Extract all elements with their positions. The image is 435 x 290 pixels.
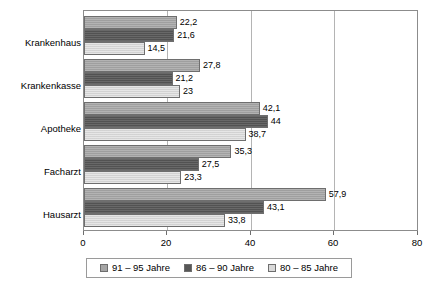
bar-value-label-0-1: 21,6 — [174, 29, 195, 42]
xtick-40 — [250, 231, 251, 235]
bar-chart: Krankenhaus Krankenkasse Apotheke Fachar… — [0, 0, 435, 290]
bar-group-4: 57,943,133,8 — [84, 188, 417, 227]
legend-item-0: 91 – 95 Jahre — [100, 262, 170, 274]
bar-group-3: 35,327,523,3 — [84, 145, 417, 184]
xtick-label-2: 40 — [245, 237, 256, 249]
bar-value-label-1-2: 23 — [180, 85, 193, 98]
value-axis: 0 20 40 60 80 — [83, 231, 418, 253]
bar-0-1[interactable] — [84, 29, 174, 42]
bar-0-2[interactable] — [84, 42, 145, 55]
bar-1-2[interactable] — [84, 85, 180, 98]
bar-value-label-3-2: 23,3 — [181, 171, 202, 184]
xtick-20 — [166, 231, 167, 235]
legend-swatch-icon-2 — [268, 264, 276, 272]
legend-swatch-icon-1 — [184, 264, 192, 272]
bar-value-label-0-2: 14,5 — [145, 42, 166, 55]
bar-3-1[interactable] — [84, 158, 199, 171]
bar-group-1: 27,821,223 — [84, 59, 417, 98]
bar-value-label-4-0: 57,9 — [326, 188, 347, 201]
xtick-0 — [83, 231, 84, 235]
bar-value-label-2-2: 38,7 — [246, 128, 267, 141]
bar-value-label-3-1: 27,5 — [199, 158, 220, 171]
category-label-2: Apotheke — [3, 123, 81, 134]
xtick-80 — [417, 231, 418, 235]
legend-item-1: 86 – 90 Jahre — [184, 262, 254, 274]
legend-label-0: 91 – 95 Jahre — [112, 262, 170, 274]
xtick-label-0: 0 — [80, 237, 85, 249]
category-axis: Krankenhaus Krankenkasse Apotheke Fachar… — [0, 10, 81, 231]
bar-value-label-2-0: 42,1 — [260, 102, 281, 115]
bar-group-0: 22,221,614,5 — [84, 16, 417, 55]
bar-1-0[interactable] — [84, 59, 200, 72]
bar-3-2[interactable] — [84, 171, 181, 184]
category-label-0: Krankenhaus — [3, 37, 81, 48]
category-label-4: Hausarzt — [3, 209, 81, 220]
xtick-label-4: 80 — [412, 237, 423, 249]
bar-2-2[interactable] — [84, 128, 246, 141]
category-label-1: Krankenkasse — [3, 80, 81, 91]
legend-item-2: 80 – 85 Jahre — [268, 262, 338, 274]
bar-value-label-2-1: 44 — [268, 115, 281, 128]
bar-0-0[interactable] — [84, 16, 177, 29]
bar-4-0[interactable] — [84, 188, 326, 201]
bar-value-label-4-1: 43,1 — [264, 201, 285, 214]
bar-value-label-4-2: 33,8 — [225, 214, 246, 227]
bar-group-2: 42,14438,7 — [84, 102, 417, 141]
bar-3-0[interactable] — [84, 145, 231, 158]
chart-legend: 91 – 95 Jahre 86 – 90 Jahre 80 – 85 Jahr… — [86, 258, 352, 278]
legend-swatch-icon-0 — [100, 264, 108, 272]
bar-value-label-1-1: 21,2 — [173, 72, 194, 85]
plot-area: 22,221,614,527,821,22342,14438,735,327,5… — [83, 10, 418, 231]
bar-4-2[interactable] — [84, 214, 225, 227]
bar-value-label-3-0: 35,3 — [231, 145, 252, 158]
legend-label-1: 86 – 90 Jahre — [196, 262, 254, 274]
xtick-60 — [333, 231, 334, 235]
bar-value-label-0-0: 22,2 — [177, 16, 198, 29]
bar-1-1[interactable] — [84, 72, 173, 85]
xtick-label-3: 60 — [328, 237, 339, 249]
xtick-label-1: 20 — [161, 237, 172, 249]
bar-4-1[interactable] — [84, 201, 264, 214]
bar-2-1[interactable] — [84, 115, 268, 128]
bar-2-0[interactable] — [84, 102, 260, 115]
legend-label-2: 80 – 85 Jahre — [280, 262, 338, 274]
bar-value-label-1-0: 27,8 — [200, 59, 221, 72]
category-label-3: Facharzt — [3, 166, 81, 177]
